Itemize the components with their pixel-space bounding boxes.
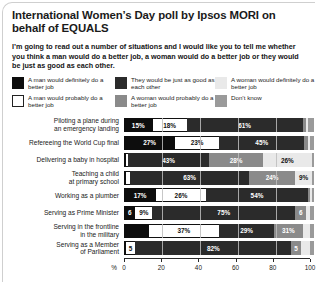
bar-segment-woman-definitely	[301, 241, 311, 255]
chart-row-label: Teaching a childat primary school	[8, 170, 124, 185]
stacked-bar: 43%28%26%	[124, 153, 314, 167]
bar-segment-man-probably: 26%	[156, 188, 205, 202]
x-axis-unit-label: %	[111, 264, 117, 271]
chart-row: Serving in the frontlinein the military3…	[8, 223, 314, 239]
legend-swatch-dont-know	[215, 95, 227, 107]
bar-segment-same: 61%	[187, 118, 303, 132]
chart-row-label: Serving as a Memberof Parliament	[8, 241, 124, 256]
bar-segment-woman-definitely: 26%	[263, 153, 312, 167]
chart-row: Teaching a childat primary school63%24%9…	[8, 170, 314, 186]
bar-segment-man-probably: 9%	[135, 206, 152, 220]
legend-item-dont-know: Don’t know	[215, 94, 315, 112]
legend-swatch-woman-definitely	[215, 77, 227, 89]
bar-segment-woman-definitely: 9%	[295, 171, 312, 185]
chart-row-label: Working as a plumber	[8, 192, 124, 200]
bar-segment-woman-probably: 5	[291, 241, 301, 255]
bar-segment-dont-know	[310, 206, 314, 220]
legend-item-same: They would be just as good as each other	[115, 76, 215, 94]
x-tick-label: 80	[269, 264, 276, 271]
chart-row-label: Serving in the frontlinein the military	[8, 223, 124, 238]
x-tick-labels: 020406080100	[124, 263, 310, 273]
legend-label: A man would definitely do a better job	[28, 76, 115, 91]
x-tick-label: 100	[305, 264, 316, 271]
legend-label: A man would probably do a better job	[28, 94, 115, 109]
bar-segment-woman-probably: 6	[295, 206, 306, 220]
stacked-bar: 17%26%54%	[124, 188, 314, 202]
bar-segment-man-probably: 23%	[175, 136, 219, 150]
legend-item-man-probably: A man would probably do a better job	[12, 94, 115, 112]
chart-row: Piloting a plane duringan emergency land…	[8, 117, 314, 133]
chart-row: Delivering a baby in hospital43%28%26%	[8, 152, 314, 168]
bar-segment-woman-probably: 24%	[249, 171, 295, 185]
bar-segment-dont-know	[312, 153, 314, 167]
legend-item-woman-definitely: A woman would definitely do a better job	[215, 76, 315, 94]
question-text: I’m going to read out a number of situat…	[12, 42, 304, 70]
stacked-bar: 37%29%31%	[124, 224, 314, 238]
legend-swatch-woman-probably	[115, 95, 127, 107]
bar-segment-dont-know	[312, 188, 314, 202]
x-tick-label: 20	[158, 264, 165, 271]
legend-label: They would be just as good as each other	[131, 76, 215, 91]
stacked-bar: 63%24%9%	[124, 171, 314, 185]
legend-label: A woman would definitely do a better job	[231, 76, 315, 91]
bar-segment-man-definitely: 27%	[124, 136, 175, 150]
legend-swatch-same	[115, 77, 127, 89]
bar-segment-same: 75%	[152, 206, 295, 220]
bar-segment-man-definitely: 17%	[124, 188, 156, 202]
bar-segment-dont-know	[310, 224, 314, 238]
bar-segment-man-definitely: 15%	[124, 118, 153, 132]
legend-label: A woman would probably do a better job	[131, 94, 215, 109]
chart-row: Refereeing the World Cup final27%23%45%	[8, 135, 314, 151]
legend-swatch-man-probably	[12, 95, 24, 107]
chart-row: Serving as a Memberof Parliament582%5	[8, 240, 314, 256]
stacked-bar: 582%5	[124, 241, 314, 255]
legend-item-woman-probably: A woman would probably do a better job	[115, 94, 215, 112]
bar-segment-same: 45%	[219, 136, 305, 150]
bar-segment-dont-know	[308, 118, 314, 132]
bar-segment-man-probably: 5	[126, 241, 136, 255]
x-tick-label: 60	[232, 264, 239, 271]
chart-row-label: Piloting a plane duringan emergency land…	[8, 117, 124, 132]
bar-segment-man-probably: 37%	[149, 224, 219, 238]
chart-row-label: Serving as Prime Minister	[8, 209, 124, 217]
bar-segment-dont-know	[310, 241, 314, 255]
bar-segment-man-definitely: 6	[124, 206, 135, 220]
bar-segment-man-probably: 18%	[153, 118, 187, 132]
bar-segment-man-definitely	[124, 224, 149, 238]
chart-legend: A man would definitely do a better jobTh…	[12, 76, 310, 112]
bar-segment-same: 29%	[219, 224, 274, 238]
legend-label: Don’t know	[231, 94, 262, 101]
chart-row-label: Refereeing the World Cup final	[8, 139, 124, 147]
bar-segment-same: 54%	[206, 188, 309, 202]
legend-swatch-man-definitely	[12, 77, 24, 89]
bar-segment-dont-know	[310, 136, 314, 150]
bar-segment-woman-probably: 28%	[209, 153, 262, 167]
x-axis-ticks: % 020406080100	[8, 263, 310, 273]
bar-segment-woman-definitely	[303, 224, 311, 238]
chart-row-label: Delivering a baby in hospital	[8, 156, 124, 164]
stacked-bar: 27%23%45%	[124, 136, 314, 150]
bar-segment-same: 63%	[130, 171, 250, 185]
chart-row: Serving as Prime Minister69%75%6	[8, 205, 314, 221]
chart-row: Working as a plumber17%26%54%	[8, 187, 314, 203]
bar-segment-same: 82%	[135, 241, 291, 255]
bar-segment-dont-know	[312, 171, 314, 185]
stacked-bar: 69%75%6	[124, 206, 314, 220]
page-title: International Women’s Day poll by Ipsos …	[12, 9, 288, 35]
poll-infographic: International Women’s Day poll by Ipsos …	[0, 0, 316, 283]
x-tick-label: 0	[122, 264, 126, 271]
legend-item-man-definitely: A man would definitely do a better job	[12, 76, 115, 94]
stacked-bar: 15%18%61%	[124, 118, 314, 132]
stacked-bar-chart: Piloting a plane duringan emergency land…	[8, 117, 314, 256]
x-tick-label: 40	[195, 264, 202, 271]
bar-segment-same: 43%	[128, 153, 210, 167]
bar-segment-woman-probably: 31%	[274, 224, 303, 238]
